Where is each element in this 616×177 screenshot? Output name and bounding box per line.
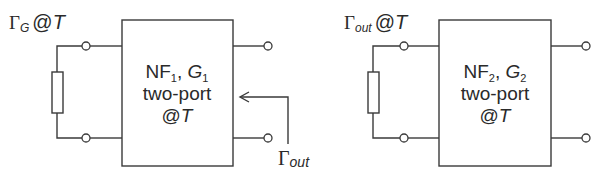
box2-type: two-port (461, 83, 530, 104)
stage-2: Γout@T NF2, G2 two-port @T (344, 11, 590, 166)
source-label-stage-1: ΓG@T (9, 11, 67, 35)
source-label-stage-2: Γout@T (344, 11, 409, 35)
terminal-icon (264, 134, 272, 142)
resistor-icon (368, 72, 379, 113)
box1-type: two-port (143, 83, 212, 104)
terminal-icon (264, 42, 272, 50)
gamma-out-label: Γout (278, 147, 310, 170)
terminal-icon (82, 134, 90, 142)
box2-nf-gain: NF2, G2 (464, 61, 527, 84)
box1-temp: @T (162, 105, 194, 126)
source-wire-stage-2 (373, 46, 400, 138)
terminal-icon (582, 42, 590, 50)
noise-cascade-diagram: ΓG@T NF1, G1 two-port @T Γout Γou (0, 0, 616, 177)
terminal-icon (582, 134, 590, 142)
source-wire-stage-1 (57, 46, 82, 138)
terminal-icon (82, 42, 90, 50)
box1-nf-gain: NF1, G1 (146, 61, 209, 84)
terminal-icon (400, 42, 408, 50)
terminal-icon (400, 134, 408, 142)
stage-1: ΓG@T NF1, G1 two-port @T Γout (9, 11, 310, 170)
resistor-icon (52, 72, 63, 113)
box2-temp: @T (480, 105, 512, 126)
